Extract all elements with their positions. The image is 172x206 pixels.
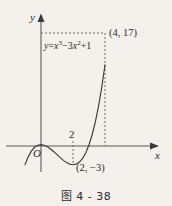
- x-axis: [6, 142, 159, 149]
- origin-label: O: [33, 148, 41, 159]
- point-label-4-17: (4, 17): [109, 28, 137, 39]
- curve-equation-label: y=x3−3x2+1: [44, 41, 91, 51]
- x-tick-label-2: 2: [69, 129, 75, 140]
- point-label-2-minus3: (2, −3): [76, 163, 105, 174]
- x-axis-label: x: [155, 150, 160, 161]
- figure-caption: 图 4 - 38: [0, 187, 172, 203]
- y-axis-label: y: [30, 12, 35, 23]
- cubic-function-graph: [0, 0, 172, 206]
- equation-constant: 1: [86, 40, 91, 51]
